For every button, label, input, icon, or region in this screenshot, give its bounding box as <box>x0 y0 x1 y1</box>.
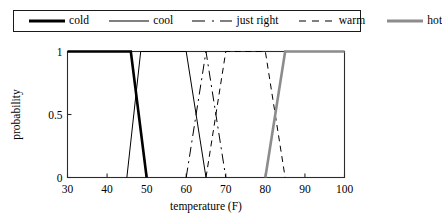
legend-label: hot <box>425 15 442 27</box>
legend-label: cold <box>67 15 89 27</box>
legend-swatch-cool-icon <box>107 16 151 26</box>
y-tick-label: 0 <box>57 172 63 184</box>
legend-label: warm <box>337 15 366 27</box>
x-axis-title: temperature (F) <box>170 200 242 213</box>
legend-entry-cool[interactable]: cool <box>98 11 182 31</box>
legend-entry-cold[interactable]: cold <box>14 11 98 31</box>
legend-entry-warm[interactable]: warm <box>289 11 376 31</box>
y-tick-label: 0.5 <box>48 109 63 121</box>
legend-entry-hot[interactable]: hot <box>375 11 442 31</box>
chart-canvas: 3040506070809010000.51temperature (F)pro… <box>0 38 376 217</box>
series-line-warm <box>206 52 285 178</box>
x-tick-label: 60 <box>180 183 192 195</box>
x-axis: 30405060708090100 <box>62 174 354 195</box>
series-line-just-right <box>186 52 226 178</box>
legend-swatch-just-right-icon <box>190 16 234 26</box>
y-axis-title: probability <box>10 89 23 140</box>
x-tick-label: 80 <box>260 183 272 195</box>
x-tick-label: 90 <box>299 183 311 195</box>
x-tick-label: 100 <box>336 183 354 195</box>
chart-legend: coldcooljust rightwarmhot <box>13 10 361 32</box>
plot-area: 3040506070809010000.51temperature (F)pro… <box>0 38 376 217</box>
plot-frame <box>68 52 345 178</box>
legend-label: just right <box>234 15 278 27</box>
series-line-cold <box>68 52 147 178</box>
x-tick-label: 70 <box>220 183 232 195</box>
x-tick-label: 30 <box>62 183 74 195</box>
series-line-hot <box>265 52 344 178</box>
legend-swatch-warm-icon <box>297 16 337 26</box>
x-tick-label: 50 <box>141 183 153 195</box>
legend-label: cool <box>151 15 173 27</box>
x-tick-label: 40 <box>101 183 113 195</box>
y-tick-label: 1 <box>57 46 63 58</box>
legend-swatch-hot-icon <box>385 16 425 26</box>
legend-entry-just-right[interactable]: just right <box>182 11 288 31</box>
legend-swatch-cold-icon <box>27 16 67 26</box>
